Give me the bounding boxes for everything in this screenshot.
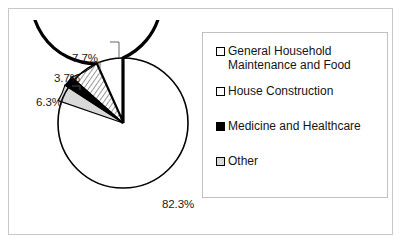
pie-value-label-other: 7.7%	[72, 52, 98, 64]
legend-swatch-black-square	[216, 122, 225, 131]
legend-swatch-white-square	[216, 87, 225, 96]
pie-value-label-general-household: 82.3%	[162, 198, 194, 210]
pie-chart-area: 7.7% 3.7% 6.3% 82.3%	[14, 20, 204, 225]
legend-swatch-gray-square	[216, 157, 225, 166]
pie-chart-svg	[14, 20, 204, 225]
pie-value-label-house-construction: 6.3%	[36, 96, 62, 108]
legend-label-general-household: General Household Maintenance and Food	[228, 44, 351, 72]
legend-swatch-white-square	[216, 47, 225, 56]
legend-label-house-construction: House Construction	[228, 84, 333, 98]
legend-label-other: Other	[228, 154, 258, 168]
legend-item-house-construction[interactable]: House Construction	[216, 84, 333, 98]
legend-label-medicine-healthcare: Medicine and Healthcare	[228, 119, 361, 133]
legend-item-other[interactable]: Other	[216, 154, 258, 168]
pie-chart-figure: 7.7% 3.7% 6.3% 82.3% General Household M…	[0, 0, 403, 245]
pie-value-label-medicine: 3.7%	[54, 72, 80, 84]
legend-item-medicine-healthcare[interactable]: Medicine and Healthcare	[216, 119, 361, 133]
legend: General Household Maintenance and Food H…	[202, 32, 388, 198]
legend-item-general-household[interactable]: General Household Maintenance and Food	[216, 44, 351, 72]
